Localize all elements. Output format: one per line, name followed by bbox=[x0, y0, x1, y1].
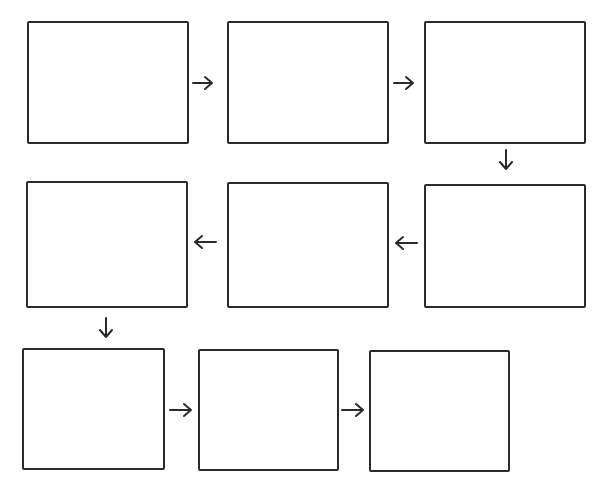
flow-box-6 bbox=[26, 181, 188, 308]
arrow-right-icon bbox=[392, 74, 416, 92]
flow-box-9 bbox=[369, 350, 510, 472]
flow-box-3 bbox=[424, 21, 586, 144]
arrow-right-icon bbox=[168, 401, 194, 419]
arrow-right-icon bbox=[340, 401, 366, 419]
arrow-down-icon bbox=[497, 148, 515, 172]
arrow-down-icon bbox=[97, 316, 115, 340]
arrow-left-icon bbox=[192, 233, 218, 251]
arrow-left-icon bbox=[393, 234, 419, 252]
flow-box-1 bbox=[27, 21, 189, 144]
flow-box-7 bbox=[22, 348, 165, 470]
flow-box-4 bbox=[424, 184, 586, 308]
flow-box-2 bbox=[227, 21, 389, 144]
arrow-right-icon bbox=[191, 74, 215, 92]
flow-box-5 bbox=[227, 182, 389, 308]
flow-box-8 bbox=[198, 349, 339, 471]
